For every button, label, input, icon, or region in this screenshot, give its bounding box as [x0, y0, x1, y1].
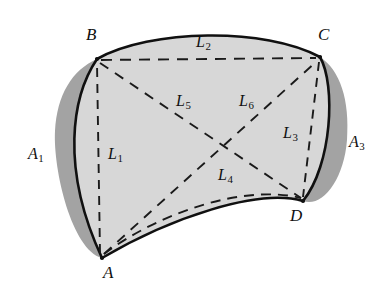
geometry-figure: A B C D L1 L2 L3 L4 L5 L6 A1 A3 [0, 0, 388, 300]
segment-label-l4: L4 [218, 167, 233, 185]
segment-label-l3: L3 [283, 125, 298, 143]
segment-label-l1: L1 [108, 146, 123, 164]
area-label-a1: A1 [28, 146, 44, 164]
vertex-marker-d [301, 199, 305, 203]
vertex-marker-b [95, 57, 99, 61]
segment-label-l2: L2 [196, 34, 211, 52]
vertex-marker-a [100, 256, 104, 260]
figure-canvas [0, 0, 388, 300]
area-label-a3: A3 [349, 134, 365, 152]
vertex-label-d: D [290, 207, 302, 224]
vertex-label-c: C [318, 26, 329, 43]
segment-label-l5: L5 [176, 93, 191, 111]
vertex-marker-c [318, 55, 322, 59]
vertex-label-a: A [103, 264, 113, 281]
vertex-label-b: B [86, 26, 96, 43]
segment-label-l6: L6 [239, 93, 254, 111]
